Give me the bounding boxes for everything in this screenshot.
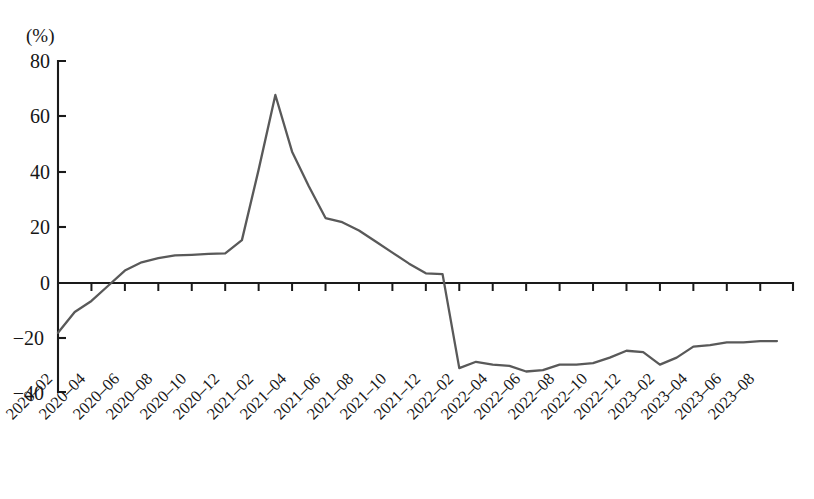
data-series-line <box>58 95 777 372</box>
y-tick-marks <box>58 116 66 338</box>
axes-group <box>58 61 793 392</box>
x-tick-marks <box>58 283 760 291</box>
chart-svg <box>0 0 814 499</box>
chart-container: (%) 80 60 40 20 0 −20 −40 2020–022020–04… <box>0 0 814 499</box>
series-group <box>58 95 777 372</box>
